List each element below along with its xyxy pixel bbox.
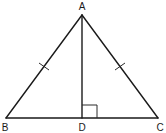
- congruence-tick-ac: [115, 63, 125, 70]
- vertex-label-b: B: [2, 122, 9, 133]
- triangle-diagram: A B D C: [0, 0, 166, 133]
- vertex-label-c: C: [156, 122, 163, 133]
- congruence-tick-ab: [39, 63, 49, 70]
- vertex-label-d: D: [78, 122, 85, 133]
- right-angle-marker: [82, 105, 97, 118]
- vertex-label-a: A: [79, 1, 86, 12]
